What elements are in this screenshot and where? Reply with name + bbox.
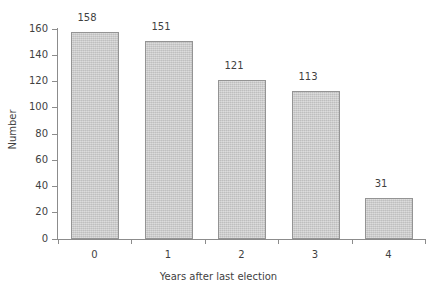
bar-value-label: 31 bbox=[341, 179, 421, 189]
y-axis-tick-label: 60 bbox=[35, 155, 48, 165]
x-axis-tick-label: 1 bbox=[131, 250, 205, 260]
x-axis-tick bbox=[131, 239, 132, 244]
bar-value-label: 151 bbox=[121, 22, 201, 32]
bar-value-label: 121 bbox=[194, 61, 274, 71]
x-axis-tick bbox=[425, 239, 426, 244]
x-axis-tick bbox=[58, 239, 59, 244]
x-axis-tick-label: 2 bbox=[205, 250, 278, 260]
x-axis-tick bbox=[278, 239, 279, 244]
y-axis-tick-label: 100 bbox=[29, 102, 48, 112]
x-axis-tick bbox=[352, 239, 353, 244]
x-axis-title: Years after last election bbox=[0, 271, 437, 282]
y-axis-tick-label: 120 bbox=[29, 76, 48, 86]
bar-chart: 0 20 40 60 80 100 120 140 160 0 1 2 3 4 … bbox=[0, 0, 437, 297]
bar-0[interactable] bbox=[71, 32, 119, 239]
y-axis-tick-label: 20 bbox=[35, 207, 48, 217]
bar-value-label: 158 bbox=[47, 13, 127, 23]
y-axis-tick-label: 80 bbox=[35, 129, 48, 139]
y-axis-tick-label: 160 bbox=[29, 24, 48, 34]
x-axis-tick-label: 3 bbox=[278, 250, 352, 260]
bar-3[interactable] bbox=[292, 91, 340, 239]
y-axis-title: Number bbox=[7, 100, 18, 160]
y-axis-tick-label: 140 bbox=[29, 50, 48, 60]
x-axis-tick-label: 4 bbox=[352, 250, 425, 260]
bar-4[interactable] bbox=[365, 198, 413, 239]
bar-1[interactable] bbox=[145, 41, 193, 239]
y-axis-tick-label: 40 bbox=[35, 181, 48, 191]
x-axis-tick-label: 0 bbox=[58, 250, 131, 260]
x-axis-line bbox=[57, 239, 426, 240]
bar-value-label: 113 bbox=[268, 72, 348, 82]
x-axis-tick bbox=[205, 239, 206, 244]
bar-2[interactable] bbox=[218, 80, 266, 239]
y-axis-tick-label: 0 bbox=[42, 234, 48, 244]
